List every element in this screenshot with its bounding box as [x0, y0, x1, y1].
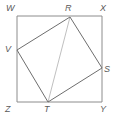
vertex-label-v: V: [5, 45, 11, 54]
vertex-label-r: R: [65, 4, 72, 13]
geometry-canvas: [0, 0, 116, 117]
vertex-label-t: T: [44, 105, 50, 114]
geometry-figure: W X Y Z R S T V: [0, 0, 116, 117]
diagonal-segment-rt: [48, 17, 70, 102]
vertex-label-s: S: [104, 65, 110, 74]
vertex-label-y: Y: [100, 105, 106, 114]
vertex-label-w: W: [6, 4, 15, 13]
vertex-label-z: Z: [5, 105, 11, 114]
vertex-label-x: X: [100, 4, 106, 13]
